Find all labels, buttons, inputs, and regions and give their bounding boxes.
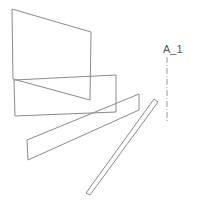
thin-strip [86, 99, 158, 195]
upper-quad [12, 9, 91, 100]
axis-label: A_1 [163, 44, 183, 55]
long-parallelogram [27, 94, 139, 160]
diagram-canvas [0, 0, 198, 202]
